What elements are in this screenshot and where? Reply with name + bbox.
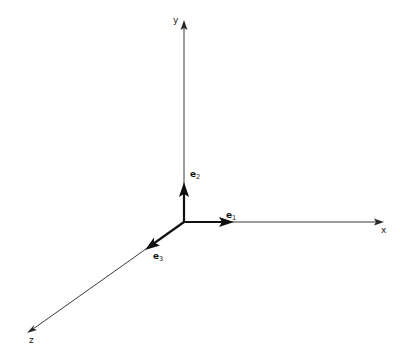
basis-vector-e2: e2 xyxy=(179,169,200,222)
z-axis-arrowhead-icon xyxy=(27,325,37,334)
coordinate-axes-diagram: x y z e1 e2 e3 xyxy=(0,0,400,357)
y-axis-label: y xyxy=(173,15,179,25)
basis-vector-e3: e3 xyxy=(145,222,184,263)
e3-label: e3 xyxy=(153,251,163,263)
z-axis-label: z xyxy=(29,335,34,345)
basis-vector-e1: e1 xyxy=(184,210,236,227)
x-axis-label: x xyxy=(381,225,387,235)
e2-label: e2 xyxy=(190,169,200,181)
z-axis: z xyxy=(27,222,184,345)
